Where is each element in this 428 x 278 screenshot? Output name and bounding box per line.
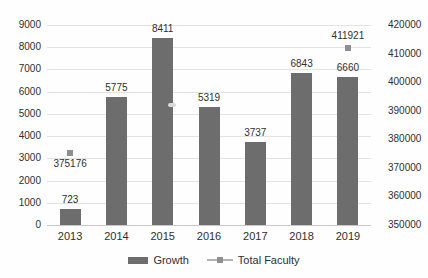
total-faculty-data-label: 411921 [332,30,365,42]
growth-bar [152,38,173,225]
chart-legend: Growth Total Faculty [0,252,428,268]
growth-bar-data-label: 5775 [105,82,127,94]
x-axis-year-label: 2014 [104,230,128,243]
growth-bar-swatch-icon [128,257,148,264]
x-axis-year-label: 2016 [197,230,221,243]
right-axis-tick: 390000 [388,105,421,117]
growth-bar-data-label: 6660 [337,62,359,74]
left-axis-tick: 1000 [3,197,41,209]
x-axis-year-label: 2015 [150,230,174,243]
right-axis-tick: 420000 [388,19,421,31]
growth-bar-data-label: 5319 [198,92,220,104]
x-axis-year-label: 2013 [58,230,82,243]
total-faculty-marker [345,45,351,51]
x-axis-year-label: 2019 [336,230,360,243]
x-axis-year-label: 2018 [289,230,313,243]
left-axis-tick: 5000 [3,108,41,120]
left-axis-tick: 4000 [3,130,41,142]
growth-bar [60,209,81,225]
x-axis-year-label: 2017 [243,230,267,243]
left-axis-tick: 6000 [3,86,41,98]
right-axis-tick: 410000 [388,48,421,60]
legend-item-total-faculty: Total Faculty [207,253,300,267]
total-faculty-marker-icon [207,257,233,263]
dual-axis-bar-chart: 0100020003000400050006000700080009000 35… [0,0,428,278]
growth-bar-data-label: 723 [62,194,79,206]
growth-bar [245,142,266,225]
gridline [47,25,371,26]
gridline [47,69,371,70]
left-axis-tick: 0 [3,219,41,231]
total-faculty-marker [67,150,73,156]
growth-bar [337,77,358,225]
scan-artifact [168,103,176,107]
x-axis-line [47,225,371,226]
growth-bar [291,73,312,225]
left-axis-tick: 3000 [3,152,41,164]
left-axis-tick: 2000 [3,175,41,187]
right-axis-tick: 350000 [388,219,421,231]
right-axis-tick: 400000 [388,76,421,88]
legend-total-faculty-label: Total Faculty [238,253,300,267]
left-axis-tick: 7000 [3,63,41,75]
legend-item-growth: Growth [128,253,188,267]
legend-growth-label: Growth [153,253,188,267]
legend-square-marker [217,257,223,263]
growth-bar-data-label: 6843 [290,58,312,70]
total-faculty-data-label: 375176 [53,158,86,170]
right-axis-tick: 370000 [388,162,421,174]
growth-bar-data-label: 8411 [152,23,174,35]
left-axis-tick: 9000 [3,19,41,31]
gridline [47,47,371,48]
right-axis-tick: 360000 [388,190,421,202]
growth-bar [199,107,220,225]
growth-bar-data-label: 3737 [244,127,266,139]
growth-bar [106,97,127,225]
left-axis-tick: 8000 [3,41,41,53]
right-axis-tick: 380000 [388,133,421,145]
